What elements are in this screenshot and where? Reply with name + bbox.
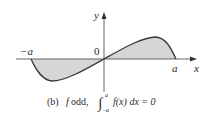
y-axis-arrow-icon (102, 12, 107, 19)
x-axis-label: x (193, 62, 199, 74)
caption-odd: odd, (71, 96, 89, 107)
left-limit-label: −a (20, 45, 33, 57)
caption-f: f (66, 96, 70, 107)
integral-upper-limit: a (105, 92, 108, 98)
x-axis-arrow-icon (190, 57, 197, 62)
origin-label: 0 (94, 45, 100, 57)
right-limit-label: a (172, 62, 178, 74)
odd-function-diagram: y 0 −a a x (b) f odd, ∫ a −a f(x) dx = 0 (0, 0, 208, 121)
y-axis-label: y (93, 9, 99, 21)
integral-lower-limit: −a (102, 107, 109, 113)
caption-integrand: f(x) dx = 0 (113, 96, 156, 108)
caption-prefix: (b) (47, 96, 59, 108)
